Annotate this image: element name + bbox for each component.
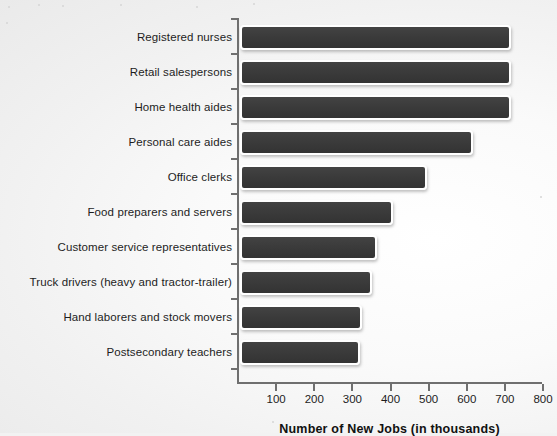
scan-artifact (62, 5, 64, 7)
bar-band (240, 335, 545, 370)
x-axis-title: Number of New Jobs (in thousands) (237, 422, 542, 436)
y-axis-tick (231, 263, 238, 265)
bar (240, 200, 393, 225)
y-axis-tick (231, 158, 238, 160)
x-axis-tick (313, 384, 315, 391)
scan-artifact (120, 4, 122, 6)
x-axis-tick-label: 800 (533, 393, 552, 405)
x-axis-tick-label: 300 (343, 393, 362, 405)
x-axis-tick-label: 400 (381, 393, 400, 405)
x-axis-tick-label: 200 (305, 393, 324, 405)
bar (240, 95, 511, 120)
bar (240, 235, 377, 260)
category-label: Registered nurses (137, 32, 232, 44)
bar-band (240, 300, 545, 335)
bar-band (240, 265, 545, 300)
bar (240, 130, 473, 155)
x-axis-tick (542, 384, 544, 391)
bar-band (240, 90, 545, 125)
x-axis-tick (390, 384, 392, 391)
bar (240, 165, 427, 190)
scan-artifact (272, 421, 274, 423)
plot-area: Number of New Jobs (in thousands) 100200… (237, 18, 542, 382)
y-axis-line (237, 18, 239, 382)
scan-artifact (253, 3, 255, 5)
y-axis-tick (231, 18, 238, 20)
bar (240, 60, 511, 85)
x-axis-tick (351, 384, 353, 391)
bar (240, 340, 360, 365)
category-label: Personal care aides (128, 137, 232, 149)
category-label: Postsecondary teachers (106, 347, 232, 359)
category-label: Retail salespersons (130, 67, 232, 79)
bar-band (240, 160, 545, 195)
scan-artifact (540, 196, 542, 198)
scan-artifact (196, 6, 198, 8)
scan-artifact (8, 6, 10, 8)
scan-artifact (6, 22, 8, 24)
bar (240, 270, 372, 295)
y-axis-tick (231, 228, 238, 230)
category-label: Home health aides (134, 102, 232, 114)
y-axis-tick (231, 193, 238, 195)
bar-band (240, 230, 545, 265)
y-axis-tick (231, 88, 238, 90)
category-label-column: Registered nursesRetail salespersonsHome… (0, 0, 232, 433)
x-axis-tick-label: 100 (267, 393, 286, 405)
x-axis-tick (466, 384, 468, 391)
y-axis-tick (231, 123, 238, 125)
category-label: Food preparers and servers (87, 207, 232, 219)
category-label: Truck drivers (heavy and tractor-trailer… (30, 277, 232, 289)
x-axis-tick-label: 700 (495, 393, 514, 405)
bar-band (240, 20, 545, 55)
x-axis-tick-label: 600 (457, 393, 476, 405)
x-axis-tick (428, 384, 430, 391)
category-label: Customer service representatives (58, 242, 233, 254)
bar-band (240, 195, 545, 230)
bar-band (240, 125, 545, 160)
y-axis-tick (231, 298, 238, 300)
bar (240, 25, 511, 50)
bar (240, 305, 362, 330)
y-axis-tick (231, 53, 238, 55)
x-axis-tick (504, 384, 506, 391)
y-axis-tick (231, 368, 238, 370)
category-label: Hand laborers and stock movers (63, 312, 232, 324)
x-axis-tick-label: 500 (419, 393, 438, 405)
category-label: Office clerks (168, 172, 232, 184)
scan-artifact (38, 4, 40, 6)
x-axis-tick (275, 384, 277, 391)
bar-band (240, 55, 545, 90)
y-axis-tick (231, 333, 238, 335)
